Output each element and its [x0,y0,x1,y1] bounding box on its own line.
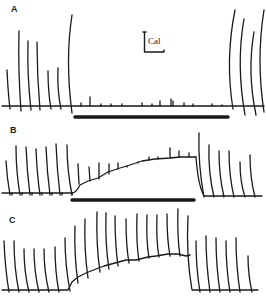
calibration-label: Cal [148,36,161,46]
figure: A B C Cal [0,0,266,299]
calibration-marker [0,0,266,299]
